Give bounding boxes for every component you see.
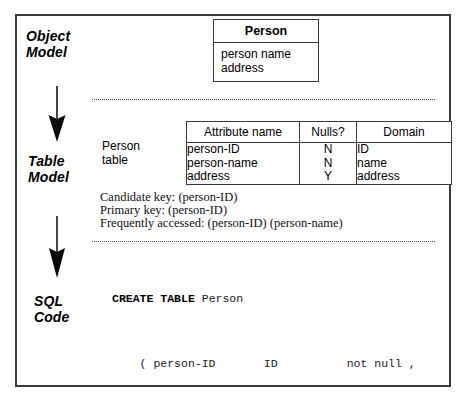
person-class-box: Person person name address <box>213 19 319 82</box>
down-arrow-icon <box>46 86 68 142</box>
column-header-domain: Domain <box>357 122 452 143</box>
attribute-table: Attribute name Nulls? Domain person-ID p… <box>186 121 452 185</box>
person-class-title: Person <box>214 20 318 43</box>
person-class-attributes: person name address <box>214 43 318 81</box>
stage-label-sql-code: SQL Code <box>34 293 69 325</box>
section-divider-object-table <box>92 99 435 100</box>
sql-code-block: CREATE TABLE Person ( person-ID ID not n… <box>112 259 416 406</box>
column-header-attribute-name: Attribute name <box>187 122 300 143</box>
sql-line-column-person-id: ( person-ID ID not null , <box>112 356 416 372</box>
section-divider-table-sql <box>92 241 435 242</box>
table-header-row: Attribute name Nulls? Domain <box>187 122 452 143</box>
sql-text-table-name: Person <box>195 292 243 305</box>
sql-keyword-create-table: CREATE TABLE <box>112 292 195 305</box>
person-table-label: Person table <box>102 140 140 167</box>
column-header-nulls: Nulls? <box>300 122 357 143</box>
cell-attribute-names: person-ID person-name address <box>187 143 300 185</box>
cell-nulls-values: N N Y <box>300 143 357 185</box>
object-table-sql-mapping-figure: Object Model Table Model SQL Code Person… <box>0 0 466 406</box>
table-row: person-ID person-name address N N Y ID n… <box>187 143 452 185</box>
sql-line-create-table: CREATE TABLE Person <box>112 291 416 307</box>
cell-domain-values: ID name address <box>357 143 452 185</box>
stage-label-object-model: Object Model <box>26 28 70 60</box>
table-key-notes: Candidate key: (person-ID) Primary key: … <box>100 191 343 231</box>
stage-label-table-model: Table Model <box>28 153 69 185</box>
down-arrow-icon <box>46 216 68 278</box>
